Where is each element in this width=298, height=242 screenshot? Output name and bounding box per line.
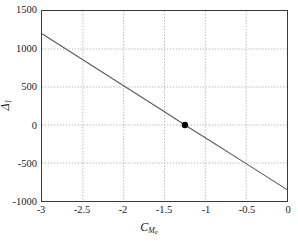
data-line [42, 34, 287, 190]
x-tick-label: -1 [186, 205, 226, 216]
x-axis-label-base: C [140, 220, 148, 234]
x-tick-label: -2 [103, 205, 143, 216]
x-tick-label: -1.5 [144, 205, 184, 216]
x-axis-label: CMα [0, 221, 298, 236]
figure-canvas: 1500 1000 500 0 -500 -1000 -3 -2.5 -2 -1… [0, 0, 298, 242]
x-tick-label: -0.5 [227, 205, 267, 216]
plot-area [41, 10, 288, 202]
x-tick-label: 0 [268, 205, 298, 216]
y-tick-label: -500 [0, 159, 37, 170]
data-layer [42, 11, 287, 201]
x-tick-label: -3 [21, 205, 61, 216]
x-tick-label: -2.5 [62, 205, 102, 216]
y-tick-label: 1000 [0, 44, 37, 55]
x-axis-label-subsubscript: α [155, 230, 158, 236]
x-axis-label-subscript: Mα [148, 226, 158, 235]
x-axis-label-subscript-base: M [148, 226, 155, 235]
y-axis-label-base: Δ [0, 104, 12, 111]
y-tick-label: 1500 [0, 5, 37, 16]
y-axis-label: Δ1 [0, 85, 13, 125]
data-point-marker [182, 122, 188, 128]
y-axis-label-subscript: 1 [4, 100, 13, 104]
